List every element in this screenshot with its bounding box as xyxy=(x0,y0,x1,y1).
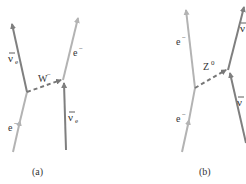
incoming-electron-line-a-2 xyxy=(20,92,27,121)
svg-text:e: e xyxy=(75,117,78,125)
svg-text:−: − xyxy=(47,71,51,79)
svg-text:−: − xyxy=(182,34,186,42)
label-antineutrino-bottom-right-b: ν xyxy=(237,96,244,108)
label-electron-top-left-b: e − xyxy=(176,34,186,47)
svg-text:Z: Z xyxy=(203,61,209,72)
svg-text:−: − xyxy=(79,45,83,53)
svg-text:ν: ν xyxy=(68,111,73,123)
outgoing-electron-line-b xyxy=(186,10,195,88)
svg-text:0: 0 xyxy=(211,59,215,67)
label-electron-bottom-left: e − xyxy=(8,120,18,133)
feynman-diagrams: ν e e − W − e − ν e (a) xyxy=(0,0,246,184)
caption-a: (a) xyxy=(32,166,43,178)
svg-text:e: e xyxy=(176,36,181,47)
label-antineutrino-bottom-right: ν e xyxy=(68,111,78,125)
caption-b: (b) xyxy=(199,166,211,178)
incoming-antineutrino-line-b xyxy=(230,73,246,143)
label-antineutrino-top-right-b: ν xyxy=(240,22,246,34)
z-boson-line xyxy=(195,70,226,88)
label-antineutrino-top-left: ν e xyxy=(8,52,18,66)
svg-text:e: e xyxy=(73,47,78,58)
svg-text:ν: ν xyxy=(8,52,13,64)
incoming-electron-line-b-2 xyxy=(189,88,195,120)
svg-text:e: e xyxy=(8,122,13,133)
svg-text:−: − xyxy=(182,111,186,119)
label-electron-top-right: e − xyxy=(73,45,83,58)
incoming-electron-line-b xyxy=(182,120,189,152)
incoming-antineutrino-line-a xyxy=(64,83,66,150)
diagram-a: ν e e − W − e − ν e (a) xyxy=(8,18,83,178)
label-z-boson: Z 0 xyxy=(203,59,215,72)
svg-text:−: − xyxy=(14,120,18,128)
diagram-b: e − e − Z 0 ν ν (b) xyxy=(176,7,246,178)
svg-text:e: e xyxy=(176,113,181,124)
label-electron-bottom-left-b: e − xyxy=(176,111,186,124)
label-w-boson: W − xyxy=(38,71,51,84)
outgoing-antineutrino-line-b xyxy=(228,7,244,70)
svg-text:ν: ν xyxy=(240,22,245,34)
svg-text:e: e xyxy=(15,58,18,66)
svg-text:ν: ν xyxy=(237,96,242,108)
